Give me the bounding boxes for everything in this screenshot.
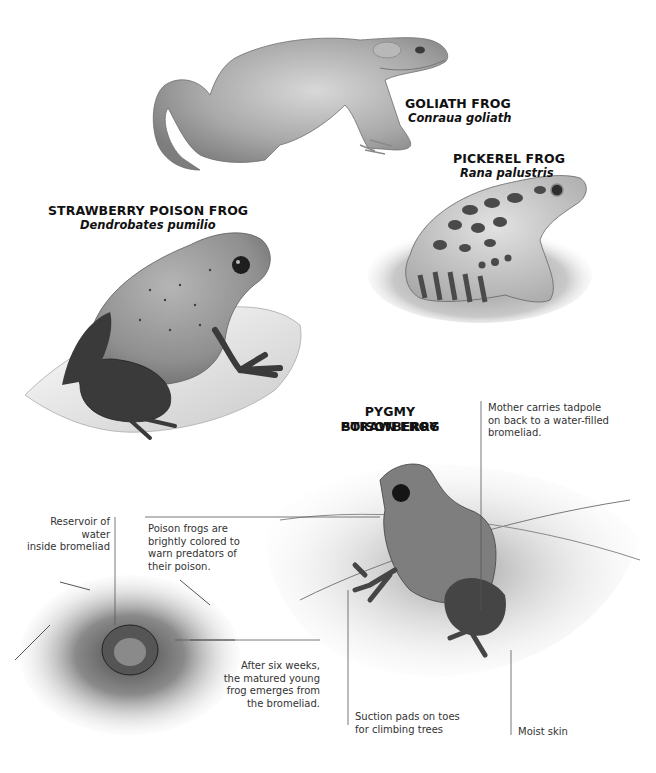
strawberry-poison-frog-title: STRAWBERRY POISON FROG: [48, 203, 248, 218]
strawberry-poison-frog-illustration: [25, 233, 301, 438]
pygmy-frog-title-line2: POISON FROG: [325, 419, 455, 434]
callout-moist-skin: Moist skin: [518, 726, 598, 739]
pickerel-frog-scientific-name: Rana palustris: [460, 166, 554, 180]
callout-reservoir-of-water: Reservoir of water inside bromeliad: [20, 516, 110, 554]
callout-mother-carries-tadpole: Mother carries tadpole on back to a wate…: [488, 402, 618, 440]
pygmy-frog-scene-illustration: [267, 464, 640, 676]
frog-illustrations: [0, 0, 656, 773]
bromeliad-illustration: [15, 575, 240, 735]
goliath-frog-title: GOLIATH FROG: [405, 96, 511, 111]
pickerel-frog-title: PICKEREL FROG: [453, 151, 565, 166]
pickerel-frog-illustration: [368, 176, 592, 323]
goliath-frog-illustration: [153, 38, 447, 170]
callout-after-six-weeks: After six weeks, the matured young frog …: [220, 660, 320, 710]
callout-poison-warning-colors: Poison frogs are brightly colored to war…: [148, 523, 268, 573]
callout-suction-pads: Suction pads on toes for climbing trees: [355, 711, 475, 736]
goliath-frog-scientific-name: Conraua goliath: [408, 111, 511, 125]
strawberry-poison-frog-scientific-name: Dendrobates pumilio: [80, 218, 216, 232]
